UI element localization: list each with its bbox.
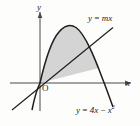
line-equation-label: y = mx [88, 14, 112, 23]
math-figure: y x O y = mx y = 4x − x2 [0, 0, 140, 126]
y-axis-label: y [37, 3, 41, 12]
x-axis-label: x [126, 79, 130, 88]
figure-canvas [0, 0, 140, 126]
parabola-equation-text: y = 4x − x [76, 105, 112, 115]
y-axis [38, 12, 43, 111]
origin-label: O [42, 84, 49, 93]
x-axis [10, 81, 131, 86]
parabola-equation-exponent: 2 [112, 104, 115, 110]
shaded-region [40, 26, 99, 83]
parabola-equation-label: y = 4x − x2 [76, 104, 115, 115]
